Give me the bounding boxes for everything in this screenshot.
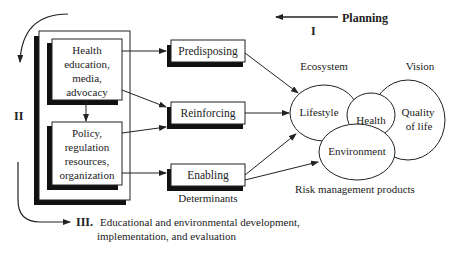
lifestyle-label: Lifestyle	[299, 106, 338, 118]
determinant-label: Enabling	[187, 169, 229, 182]
phase-iii-numeral: III.	[76, 215, 93, 229]
arrow-icon	[245, 53, 298, 93]
risk-management-caption: Risk management products	[295, 183, 415, 195]
ecosystem-label: Ecosystem	[300, 60, 348, 72]
evaluation-phase: III. Educational and environmental devel…	[76, 215, 300, 242]
vision-label: Vision	[406, 60, 435, 72]
health-label: Health	[356, 114, 386, 126]
health-education-box: Health education, media, advocacy	[47, 39, 122, 105]
determinant-predisposing: Predisposing	[167, 40, 245, 67]
phase-ii-numeral: II	[14, 109, 24, 123]
determinant-label: Predisposing	[178, 45, 238, 58]
health-box-line: Health	[72, 44, 102, 56]
policy-box-line: Policy,	[72, 127, 102, 139]
determinant-reinforcing: Reinforcing	[167, 102, 245, 129]
health-box-line: advocacy	[66, 86, 108, 98]
policy-box-line: organization	[60, 169, 115, 181]
policy-box-line: resources,	[65, 155, 110, 167]
quality-label-line2: of life	[406, 120, 433, 132]
determinant-enabling: Enabling	[167, 164, 245, 191]
environment-label: Environment	[328, 145, 385, 157]
determinant-label: Reinforcing	[181, 107, 236, 120]
outcomes: Ecosystem Vision Lifestyle Health Qualit…	[290, 60, 445, 195]
determinants-caption: Determinants	[178, 192, 237, 204]
policy-box: Policy, regulation resources, organizati…	[47, 122, 122, 190]
planning-label: Planning	[342, 11, 388, 25]
quality-label-line1: Quality	[402, 106, 435, 118]
policy-box-line: regulation	[65, 141, 110, 153]
health-box-line: media,	[72, 72, 102, 84]
phase-iii-line2: implementation, and evaluation	[97, 230, 236, 242]
health-box-line: education,	[64, 58, 110, 70]
planning-numeral: I	[311, 24, 316, 38]
phase-iii-line1: Educational and environmental developmen…	[100, 216, 300, 228]
precede-proceed-diagram: Planning I II III. Educational and envir…	[0, 0, 457, 256]
arrow-icon	[245, 162, 318, 180]
planning-phase: Planning I	[276, 11, 388, 38]
